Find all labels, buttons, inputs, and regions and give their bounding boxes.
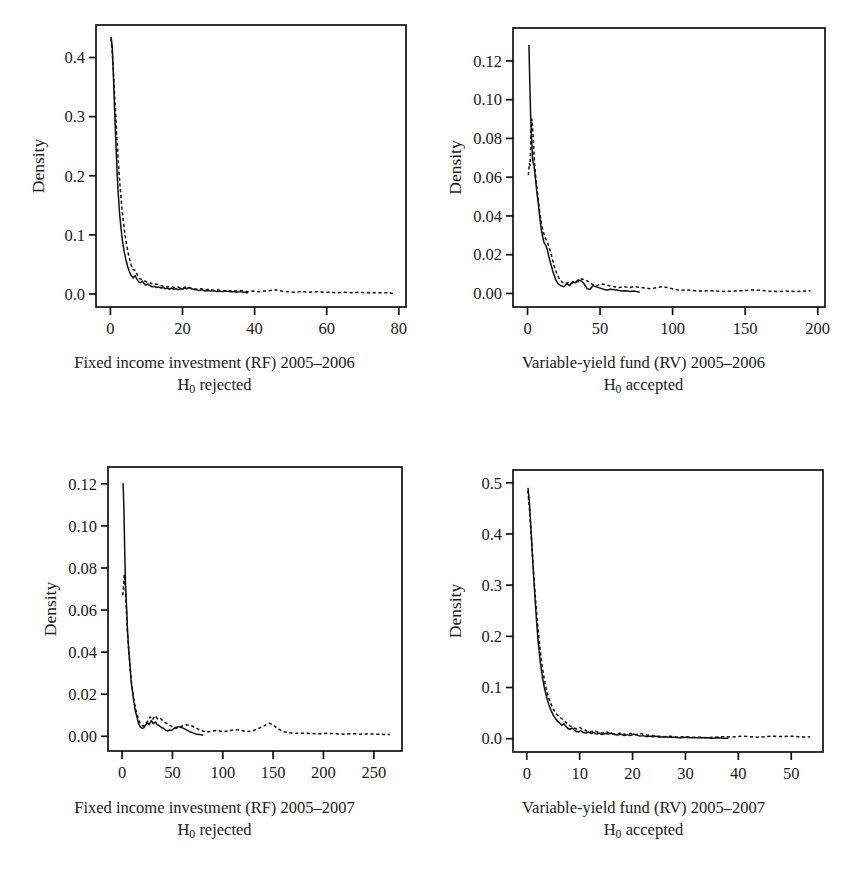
- y-tick-label: 0.02: [473, 245, 502, 264]
- x-tick-label: 40: [730, 764, 747, 783]
- plot-frame: [513, 28, 825, 307]
- density-curve-empirical-density: [528, 488, 728, 738]
- x-tick-label: 0: [118, 763, 126, 782]
- caption-line-2: H0 accepted: [429, 374, 858, 398]
- y-tick-label: 0.0: [64, 285, 85, 304]
- x-tick-label: 30: [677, 764, 694, 783]
- x-tick-label: 200: [805, 319, 830, 338]
- y-tick-label: 0.04: [68, 643, 97, 662]
- plot-area: 0.000.020.040.060.080.100.12050100150200…: [0, 445, 429, 785]
- y-tick-label: 0.1: [481, 678, 502, 697]
- x-tick-label: 0: [523, 319, 531, 338]
- panel-rf-2005-2007: 0.000.020.040.060.080.100.12050100150200…: [0, 445, 429, 890]
- caption-line-1: Variable-yield fund (RV) 2005–2007: [522, 798, 765, 817]
- y-tick-label: 0.08: [473, 129, 502, 148]
- null-hypothesis-symbol: H0: [177, 375, 195, 394]
- panel-rv-2005-2006: 0.000.020.040.060.080.100.12050100150200…: [429, 0, 858, 445]
- y-tick-label: 0.3: [481, 576, 502, 595]
- caption-line-2: H0 accepted: [429, 819, 858, 843]
- x-tick-label: 150: [261, 763, 286, 782]
- y-axis-title: Density: [40, 582, 60, 637]
- y-tick-label: 0.1: [64, 226, 85, 245]
- density-curve-empirical-density: [123, 484, 203, 735]
- caption-line-1: Fixed income investment (RF) 2005–2006: [74, 353, 354, 372]
- y-tick-label: 0.4: [64, 48, 85, 67]
- x-tick-label: 0: [523, 764, 531, 783]
- hypothesis-decision: rejected: [195, 820, 251, 839]
- y-tick-label: 0.00: [68, 727, 97, 746]
- caption-line-2: H0 rejected: [0, 819, 429, 843]
- y-tick-label: 0.4: [481, 525, 502, 544]
- plot-frame: [513, 470, 823, 752]
- x-tick-label: 150: [733, 319, 758, 338]
- x-tick-label: 80: [391, 319, 408, 338]
- x-tick-label: 20: [174, 319, 191, 338]
- x-tick-label: 50: [164, 763, 181, 782]
- y-tick-label: 0.10: [68, 517, 97, 536]
- x-tick-label: 200: [311, 763, 336, 782]
- density-plot-figure: 0.00.10.20.30.4020406080ValueDensityFixe…: [0, 0, 858, 890]
- x-tick-label: 40: [246, 319, 263, 338]
- x-tick-label: 10: [571, 764, 588, 783]
- panel-caption: Variable-yield fund (RV) 2005–2006H0 acc…: [429, 352, 858, 398]
- y-tick-label: 0.10: [473, 90, 502, 109]
- y-tick-label: 0.06: [473, 168, 502, 187]
- y-axis-title: Density: [445, 140, 465, 195]
- density-curve-theoretical-density: [528, 490, 810, 737]
- y-tick-label: 0.12: [68, 475, 97, 494]
- plot-frame: [108, 467, 402, 751]
- y-tick-label: 0.5: [481, 474, 502, 493]
- panel-caption: Fixed income investment (RF) 2005–2006H0…: [0, 352, 429, 398]
- y-tick-label: 0.3: [64, 107, 85, 126]
- null-hypothesis-symbol: H0: [604, 820, 622, 839]
- y-axis-title: Density: [28, 139, 48, 194]
- x-tick-label: 250: [361, 763, 386, 782]
- density-curve-theoretical-density: [111, 39, 393, 294]
- density-curve-theoretical-density: [123, 574, 390, 734]
- panel-caption: Fixed income investment (RF) 2005–2007H0…: [0, 797, 429, 843]
- x-tick-label: 100: [660, 319, 685, 338]
- y-tick-label: 0.00: [473, 284, 502, 303]
- plot-area: 0.00.10.20.30.40.501020304050ValueDensit…: [429, 445, 858, 785]
- x-tick-label: 60: [318, 319, 335, 338]
- null-hypothesis-symbol: H0: [177, 820, 195, 839]
- plot-area: 0.000.020.040.060.080.100.12050100150200…: [429, 0, 858, 340]
- density-curve-empirical-density: [529, 45, 639, 291]
- y-tick-label: 0.02: [68, 685, 97, 704]
- x-tick-label: 0: [106, 319, 114, 338]
- caption-line-1: Fixed income investment (RF) 2005–2007: [74, 798, 354, 817]
- caption-line-2: H0 rejected: [0, 374, 429, 398]
- y-axis-title: Density: [445, 584, 465, 639]
- panel-rf-2005-2006: 0.00.10.20.30.4020406080ValueDensityFixe…: [0, 0, 429, 445]
- panel-caption: Variable-yield fund (RV) 2005–2007H0 acc…: [429, 797, 858, 843]
- y-tick-label: 0.2: [64, 167, 85, 186]
- y-tick-label: 0.06: [68, 601, 97, 620]
- x-tick-label: 50: [592, 319, 609, 338]
- y-tick-label: 0.2: [481, 627, 502, 646]
- density-curve-empirical-density: [111, 37, 247, 292]
- y-tick-label: 0.0: [481, 729, 502, 748]
- y-tick-label: 0.08: [68, 559, 97, 578]
- hypothesis-decision: accepted: [622, 820, 684, 839]
- density-curve-theoretical-density: [528, 119, 810, 291]
- caption-line-1: Variable-yield fund (RV) 2005–2006: [522, 353, 765, 372]
- plot-frame: [96, 25, 406, 307]
- x-tick-label: 50: [783, 764, 800, 783]
- null-hypothesis-symbol: H0: [604, 375, 622, 394]
- y-tick-label: 0.12: [473, 52, 502, 71]
- x-tick-label: 20: [624, 764, 641, 783]
- y-tick-label: 0.04: [473, 207, 502, 226]
- hypothesis-decision: rejected: [195, 375, 251, 394]
- x-tick-label: 100: [210, 763, 235, 782]
- panel-rv-2005-2007: 0.00.10.20.30.40.501020304050ValueDensit…: [429, 445, 858, 890]
- hypothesis-decision: accepted: [622, 375, 684, 394]
- plot-area: 0.00.10.20.30.4020406080ValueDensity: [0, 0, 429, 340]
